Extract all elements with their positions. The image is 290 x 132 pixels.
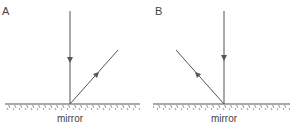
reflected-ray — [176, 50, 224, 104]
reflection-diagram: A mirror B mirror — [0, 0, 290, 132]
panel-b-label: B — [155, 5, 162, 17]
panel-a: A mirror — [2, 5, 140, 124]
arrow-down-icon — [67, 57, 73, 63]
arrow-down-icon — [221, 55, 227, 61]
mirror-label: mirror — [57, 113, 84, 124]
mirror-label: mirror — [211, 113, 238, 124]
reflected-ray — [70, 50, 118, 104]
mirror-hatching — [153, 105, 290, 110]
mirror-hatching — [5, 105, 140, 110]
panel-b: B mirror — [153, 5, 290, 124]
panel-a-label: A — [2, 5, 10, 17]
